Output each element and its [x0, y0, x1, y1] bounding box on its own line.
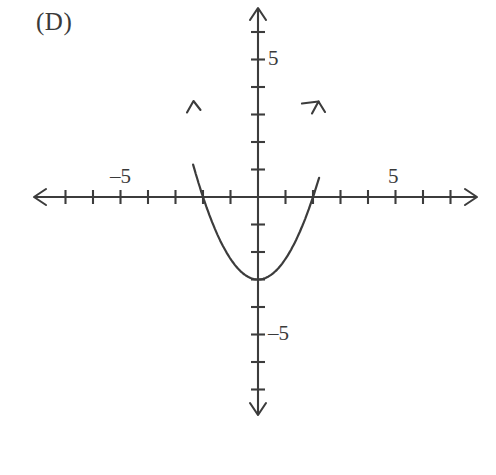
multiple-choice-graph-figure: (D)	[0, 0, 496, 475]
y-axis-label-negative-5: –5	[268, 323, 289, 344]
y-axis-label-positive-5: 5	[268, 48, 279, 69]
x-axis-label-positive-5: 5	[388, 166, 399, 187]
parabola-left-branch-svg	[0, 0, 496, 475]
x-axis-label-negative-5: –5	[110, 166, 131, 187]
parabola-left-branch-curve	[193, 165, 258, 280]
